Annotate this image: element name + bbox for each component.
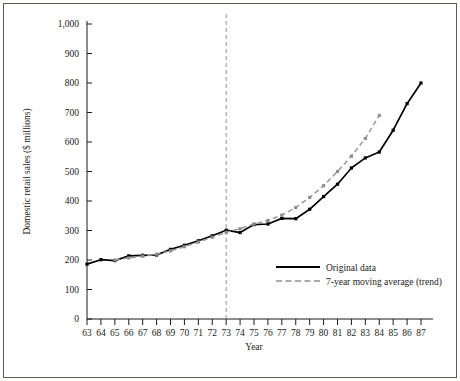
y-axis-tick-label: 200 — [65, 255, 80, 265]
x-axis-tick-label: 77 — [277, 328, 287, 338]
x-axis-tick-label: 79 — [305, 328, 315, 338]
data-point — [113, 258, 116, 261]
data-point — [308, 208, 311, 211]
x-axis-tick-label: 75 — [249, 328, 259, 338]
x-axis-tick-label: 68 — [152, 328, 162, 338]
data-point — [294, 206, 297, 209]
y-axis-tick-label: 100 — [65, 285, 80, 295]
x-axis-tick-label: 76 — [263, 328, 273, 338]
x-axis-tick-label: 73 — [221, 328, 231, 338]
legend-label: Original data — [326, 263, 377, 273]
data-point — [252, 222, 255, 225]
data-point — [225, 231, 228, 234]
data-point — [364, 137, 367, 140]
y-axis-tick-label: 1,000 — [58, 19, 80, 29]
x-axis-tick-label: 72 — [208, 328, 218, 338]
data-point — [378, 114, 381, 117]
data-point — [350, 155, 353, 158]
data-point — [336, 170, 339, 173]
x-axis-tick-label: 84 — [375, 328, 385, 338]
legend-label: 7-year moving average (trend) — [326, 277, 442, 288]
x-axis-tick-label: 78 — [291, 328, 301, 338]
data-point — [141, 255, 144, 258]
figure-frame: 01002003004005006007008009001,0006364656… — [3, 3, 457, 378]
y-axis-tick-label: 600 — [65, 137, 80, 147]
data-point — [266, 219, 269, 222]
data-point — [378, 150, 381, 153]
y-axis-title: Domestic retail sales ($ millions) — [22, 108, 33, 234]
data-point — [294, 217, 297, 220]
data-point — [308, 196, 311, 199]
series-line-1 — [87, 83, 421, 264]
y-axis-tick-label: 900 — [65, 49, 80, 59]
y-axis-tick-label: 700 — [65, 108, 80, 118]
x-axis-tick-label: 63 — [82, 328, 92, 338]
data-point — [280, 214, 283, 217]
data-point — [169, 249, 172, 252]
x-axis-title: Year — [245, 342, 263, 352]
data-point — [238, 227, 241, 230]
data-point — [364, 156, 367, 159]
data-point — [183, 245, 186, 248]
data-point — [155, 253, 158, 256]
data-point — [350, 166, 353, 169]
x-axis-tick-label: 65 — [110, 328, 120, 338]
x-axis-tick-label: 67 — [138, 328, 148, 338]
data-point — [322, 195, 325, 198]
data-point — [238, 231, 241, 234]
y-axis-tick-label: 400 — [65, 196, 80, 206]
x-axis-tick-label: 80 — [319, 328, 329, 338]
y-axis-tick-label: 300 — [65, 226, 80, 236]
data-point — [85, 263, 88, 266]
x-axis-tick-label: 66 — [124, 328, 134, 338]
x-axis-tick-label: 64 — [96, 328, 106, 338]
x-axis-tick-label: 69 — [166, 328, 176, 338]
y-axis-tick-label: 500 — [65, 167, 80, 177]
data-point — [127, 256, 130, 259]
data-point — [336, 183, 339, 186]
data-point — [197, 240, 200, 243]
y-axis-tick-label: 0 — [74, 314, 79, 324]
line-chart: 01002003004005006007008009001,0006364656… — [4, 4, 458, 379]
x-axis-tick-label: 82 — [347, 328, 357, 338]
data-point — [211, 236, 214, 239]
data-point — [405, 102, 408, 105]
figure-container: 01002003004005006007008009001,0006364656… — [0, 0, 460, 381]
data-point — [280, 217, 283, 220]
x-axis-tick-label: 83 — [361, 328, 371, 338]
x-axis-tick-label: 71 — [194, 328, 204, 338]
x-axis-tick-label: 87 — [416, 328, 426, 338]
data-point — [392, 129, 395, 132]
x-axis-tick-label: 74 — [235, 328, 245, 338]
y-axis-tick-label: 800 — [65, 78, 80, 88]
x-axis-tick-label: 85 — [388, 328, 398, 338]
data-point — [99, 258, 102, 261]
data-point — [322, 184, 325, 187]
series-line-2 — [115, 115, 379, 260]
x-axis-tick-label: 70 — [180, 328, 190, 338]
x-axis-tick-label: 81 — [333, 328, 343, 338]
data-point — [419, 81, 422, 84]
data-point — [266, 222, 269, 225]
x-axis-tick-label: 86 — [402, 328, 412, 338]
